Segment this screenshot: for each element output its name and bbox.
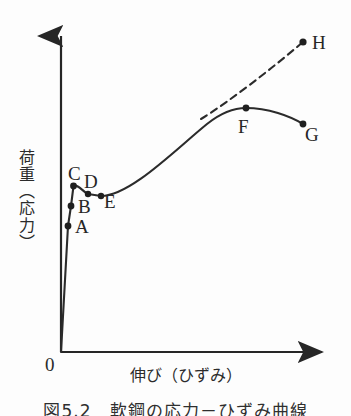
- data-point-F: [243, 105, 250, 112]
- point-label-C: C: [68, 163, 81, 184]
- figure-container: A B C D E F G H 0 伸び（ひずみ） 荷重（応力） 図5.2 軟鋼…: [0, 0, 351, 416]
- stress-strain-chart: A B C D E F G H 0 伸び（ひずみ）: [0, 0, 351, 416]
- data-point-A: [65, 223, 72, 230]
- curve-nominal-stress: [61, 108, 303, 352]
- point-label-G: G: [305, 124, 319, 145]
- point-label-E: E: [104, 191, 116, 212]
- origin-label: 0: [45, 354, 55, 375]
- point-label-F: F: [238, 116, 249, 137]
- data-point-B: [68, 203, 75, 210]
- figure-caption: 図5.2 軟鋼の応力－ひずみ曲線: [0, 397, 351, 416]
- figure-caption-wrapper: 図5.2 軟鋼の応力－ひずみ曲線: [0, 397, 351, 416]
- data-point-H: [299, 38, 306, 45]
- point-label-H: H: [312, 32, 326, 53]
- point-label-A: A: [75, 216, 89, 237]
- point-label-B: B: [78, 196, 91, 217]
- x-axis-title: 伸び（ひずみ）: [130, 366, 242, 385]
- point-label-D: D: [84, 171, 98, 192]
